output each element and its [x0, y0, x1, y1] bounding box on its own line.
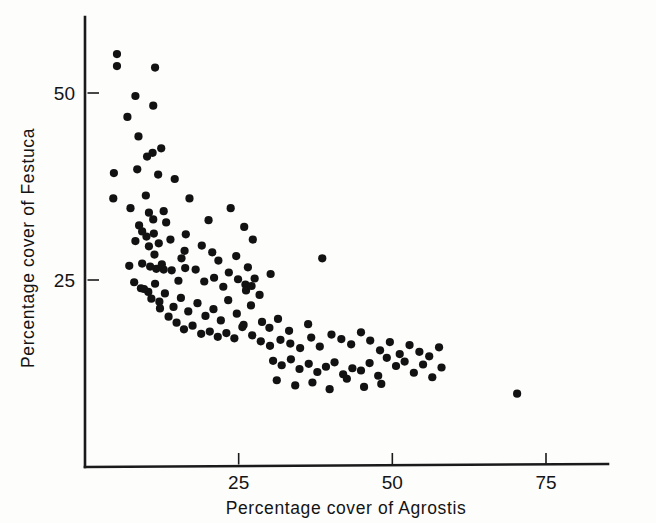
data-point	[133, 165, 141, 173]
data-point	[217, 316, 225, 324]
data-point	[278, 361, 286, 369]
data-point	[171, 175, 179, 183]
data-point	[337, 335, 345, 343]
y-tick-label: 50	[54, 83, 75, 104]
data-point	[174, 277, 182, 285]
x-axis-line	[85, 464, 608, 467]
data-point	[142, 191, 150, 199]
data-point	[161, 289, 169, 297]
data-point	[177, 254, 185, 262]
data-point	[198, 241, 206, 249]
data-point	[164, 313, 172, 321]
data-point	[437, 363, 445, 371]
data-point	[257, 337, 265, 345]
data-point	[267, 270, 275, 278]
data-point	[150, 230, 158, 238]
data-point	[169, 303, 177, 311]
data-point	[343, 375, 351, 383]
x-axis: 255075	[85, 453, 608, 493]
data-point	[296, 344, 304, 352]
data-point	[143, 152, 151, 160]
data-point	[273, 376, 281, 384]
data-point	[330, 358, 338, 366]
data-point	[365, 359, 373, 367]
data-point	[219, 283, 227, 291]
data-point	[166, 236, 174, 244]
data-point	[204, 216, 212, 224]
data-point	[155, 239, 163, 247]
data-point	[269, 357, 277, 365]
data-point	[149, 215, 157, 223]
data-point	[185, 194, 193, 202]
data-point	[232, 252, 240, 260]
data-point	[287, 355, 295, 363]
data-point	[265, 324, 273, 332]
data-point	[209, 305, 217, 313]
data-point	[184, 307, 192, 315]
data-point	[158, 260, 166, 268]
data-point	[150, 250, 158, 258]
data-point	[313, 368, 321, 376]
data-point	[244, 263, 252, 271]
data-point	[360, 383, 368, 391]
data-point	[110, 169, 118, 177]
data-point	[201, 312, 209, 320]
data-point	[276, 336, 284, 344]
y-axis: 2550	[54, 17, 99, 467]
data-point	[188, 322, 196, 330]
data-point	[126, 204, 134, 212]
data-point	[234, 275, 242, 283]
data-point	[177, 294, 185, 302]
data-point	[160, 207, 168, 215]
data-point	[125, 262, 133, 270]
data-point	[258, 318, 266, 326]
data-point	[162, 218, 170, 226]
data-point	[396, 350, 404, 358]
data-point	[181, 264, 189, 272]
data-points-layer	[109, 50, 521, 398]
x-axis-label: Percentage cover of Agrostis	[226, 498, 467, 518]
data-point	[374, 372, 382, 380]
data-point	[193, 299, 201, 307]
scatter-figure: 2550 255075 Percentage cover of Agrostis…	[0, 0, 656, 523]
data-point	[168, 266, 176, 274]
data-point	[172, 319, 180, 327]
data-point	[180, 325, 188, 333]
data-point	[435, 343, 443, 351]
data-point	[222, 329, 230, 337]
data-point	[366, 336, 374, 344]
data-point	[401, 357, 409, 365]
data-point	[326, 385, 334, 393]
data-point	[192, 265, 200, 273]
data-point	[308, 378, 316, 386]
data-point	[305, 360, 313, 368]
data-point	[134, 132, 142, 140]
data-point	[316, 342, 324, 350]
data-point	[251, 274, 259, 282]
data-point	[286, 339, 294, 347]
data-point	[419, 360, 427, 368]
data-point	[377, 380, 385, 388]
data-point	[214, 256, 222, 264]
data-point	[247, 301, 255, 309]
data-point	[147, 295, 155, 303]
data-point	[230, 334, 238, 342]
data-point	[131, 92, 139, 100]
data-point	[392, 362, 400, 370]
y-ticklabel-group: 2550	[54, 83, 75, 291]
x-tick-label: 25	[228, 472, 249, 493]
data-point	[357, 328, 365, 336]
data-point	[200, 277, 208, 285]
data-point	[386, 338, 394, 346]
data-point	[322, 363, 330, 371]
data-point	[348, 364, 356, 372]
y-axis-label: Percentage cover of Festuca	[18, 128, 38, 368]
data-point	[145, 209, 153, 217]
data-point	[138, 259, 146, 267]
data-point	[347, 340, 355, 348]
data-point	[157, 144, 165, 152]
data-point	[255, 291, 263, 299]
data-point	[285, 327, 293, 335]
data-point	[214, 333, 222, 341]
data-point	[109, 194, 117, 202]
